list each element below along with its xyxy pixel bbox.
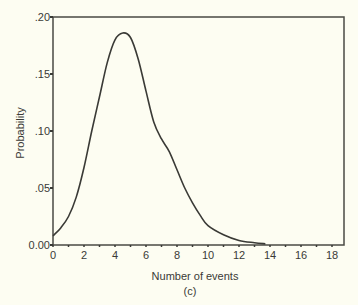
x-tick-label: 8 — [174, 249, 180, 261]
plot-frame — [53, 17, 344, 245]
x-tick-label: 12 — [233, 249, 245, 261]
chart-caption: (c) — [184, 285, 197, 297]
x-tick-label: 14 — [264, 249, 276, 261]
y-tick-label: .10 — [35, 125, 50, 137]
x-tick-label: 16 — [295, 249, 307, 261]
probability-curve — [53, 33, 265, 244]
x-tick-label: 6 — [143, 249, 149, 261]
x-tick-label: 18 — [326, 249, 338, 261]
x-tick-label: 2 — [81, 249, 87, 261]
y-tick-label: .05 — [35, 182, 50, 194]
y-tick-label: 0.00 — [29, 239, 50, 251]
y-axis-ticks: 0.00.05.10.15.20 — [29, 11, 53, 251]
y-tick-label: .15 — [35, 68, 50, 80]
x-tick-label: 4 — [112, 249, 118, 261]
probability-chart: 0.00.05.10.15.20 024681012141618 Number … — [0, 0, 358, 305]
x-tick-label: 0 — [50, 249, 56, 261]
x-axis-ticks: 024681012141618 — [50, 245, 338, 261]
x-tick-label: 10 — [202, 249, 214, 261]
y-axis-title: Probability — [14, 107, 26, 159]
y-tick-label: .20 — [35, 11, 50, 23]
x-axis-title: Number of events — [152, 270, 239, 282]
